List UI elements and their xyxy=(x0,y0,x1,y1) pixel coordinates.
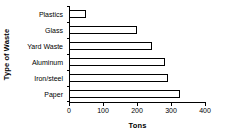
x-axis-tick xyxy=(205,103,206,106)
x-axis-tick-label: 200 xyxy=(124,107,150,114)
bar-row xyxy=(70,54,206,70)
y-tick-label-iron-steel: Iron/steel xyxy=(14,71,66,87)
bar-paper xyxy=(70,90,180,98)
x-axis-tick-label: 400 xyxy=(192,107,218,114)
plot-area xyxy=(69,6,206,103)
y-tick-label-aluminum: Aluminum xyxy=(14,55,66,71)
bar-aluminum xyxy=(70,58,165,66)
x-axis-tick-labels: 0100200300400 xyxy=(59,107,216,118)
bar-glass xyxy=(70,26,137,34)
y-tick-label-yard-waste: Yard Waste xyxy=(14,38,66,54)
bar-row xyxy=(70,38,206,54)
x-axis-tick xyxy=(171,103,172,106)
bar-series xyxy=(70,6,206,102)
bar-row xyxy=(70,70,206,86)
bar-iron-steel xyxy=(70,74,168,82)
bar-row xyxy=(70,86,206,102)
x-axis-title: Tons xyxy=(69,121,206,130)
y-tick-label-plastics: Plastics xyxy=(14,6,66,22)
x-axis-tick-label: 0 xyxy=(56,107,82,114)
x-axis-ticks xyxy=(69,103,206,106)
x-axis-tick xyxy=(69,103,70,106)
x-axis-tick-label: 100 xyxy=(90,107,116,114)
bar-row xyxy=(70,6,206,22)
y-tick-label-paper: Paper xyxy=(14,87,66,103)
x-axis-tick xyxy=(137,103,138,106)
bar-plastics xyxy=(70,10,86,18)
bar-chart: Type of Waste Plastics Glass Yard Waste … xyxy=(0,0,237,139)
bar-yard-waste xyxy=(70,42,152,50)
x-axis-tick-label: 300 xyxy=(158,107,184,114)
bar-row xyxy=(70,22,206,38)
y-axis-tick-labels: Plastics Glass Yard Waste Aluminum Iron/… xyxy=(14,6,66,103)
y-axis-title: Type of Waste xyxy=(0,0,14,108)
y-tick-label-glass: Glass xyxy=(14,22,66,38)
y-axis-title-label: Type of Waste xyxy=(3,28,12,79)
x-axis-tick xyxy=(103,103,104,106)
